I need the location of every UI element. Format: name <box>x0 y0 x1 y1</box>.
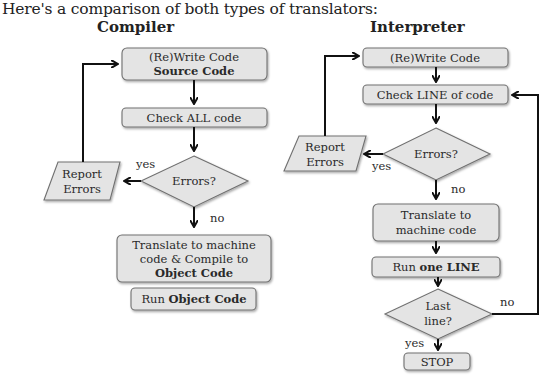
interpreter-translate-text-1: Translate to <box>401 208 472 222</box>
compiler-no-label: no <box>210 211 224 225</box>
interpreter-check-box: Check LINE of code <box>363 85 508 104</box>
arrow-loop-back-icon <box>492 95 538 314</box>
compiler-errors-decision: Errors? <box>141 156 248 207</box>
compiler-run-box: Run Object Code <box>131 288 256 310</box>
compiler-report-errors: Report Errors <box>44 162 120 200</box>
compiler-run-prefix: Run <box>141 292 168 306</box>
compiler-rewrite-text: (Re)Write Code <box>149 50 239 64</box>
compiler-flowchart: (Re)Write Code Source Code Check ALL cod… <box>44 48 271 310</box>
interpreter-report-errors: Report Errors <box>284 136 366 171</box>
interpreter-rewrite-text: (Re)Write Code <box>390 51 480 65</box>
interpreter-translate-text-2: machine code <box>396 223 477 237</box>
interpreter-translate-box: Translate to machine code <box>373 204 499 241</box>
interpreter-stop-box: STOP <box>404 353 470 370</box>
compiler-rewrite-box: (Re)Write Code Source Code <box>122 48 267 80</box>
flowchart-diagram: (Re)Write Code Source Code Check ALL cod… <box>0 0 558 386</box>
compiler-report-text-2: Errors <box>63 182 101 196</box>
compiler-translate-text-3: Object Code <box>155 266 233 280</box>
interpreter-run-bold: one LINE <box>420 260 480 274</box>
svg-text:Run Object Code: Run Object Code <box>141 292 246 306</box>
compiler-check-text: Check ALL code <box>147 111 242 125</box>
compiler-decision-text: Errors? <box>172 174 216 188</box>
interpreter-flowchart: (Re)Write Code Check LINE of code Errors… <box>284 48 538 370</box>
compiler-yes-label: yes <box>135 157 155 171</box>
compiler-translate-text-2: code & Compile to <box>140 252 249 266</box>
compiler-translate-text-1: Translate to machine <box>132 238 256 252</box>
compiler-source-code-text: Source Code <box>154 64 235 78</box>
interpreter-last-line-decision: Last line? <box>385 289 492 339</box>
interpreter-last-text-1: Last <box>425 299 450 313</box>
interpreter-last-no-label: no <box>500 295 514 309</box>
interpreter-last-yes-label: yes <box>404 336 424 350</box>
interpreter-decision-text: Errors? <box>414 147 458 161</box>
arrow-loop-back-icon <box>83 64 117 162</box>
interpreter-run-prefix: Run <box>392 260 419 274</box>
svg-text:Run one LINE: Run one LINE <box>392 260 479 274</box>
interpreter-stop-text: STOP <box>421 355 454 369</box>
compiler-translate-box: Translate to machine code & Compile to O… <box>117 235 271 282</box>
compiler-check-box: Check ALL code <box>122 108 267 127</box>
arrow-loop-back-icon <box>325 56 358 136</box>
interpreter-run-box: Run one LINE <box>372 257 500 277</box>
interpreter-rewrite-box: (Re)Write Code <box>363 48 508 67</box>
compiler-run-bold: Object Code <box>169 292 247 306</box>
interpreter-check-text: Check LINE of code <box>377 88 494 102</box>
interpreter-yes-label: yes <box>371 159 391 173</box>
interpreter-errors-decision: Errors? <box>383 128 490 180</box>
interpreter-last-text-2: line? <box>424 314 452 328</box>
interpreter-no-label: no <box>451 182 465 196</box>
interpreter-report-text-1: Report <box>305 140 345 154</box>
interpreter-report-text-2: Errors <box>306 155 344 169</box>
compiler-report-text-1: Report <box>62 167 102 181</box>
